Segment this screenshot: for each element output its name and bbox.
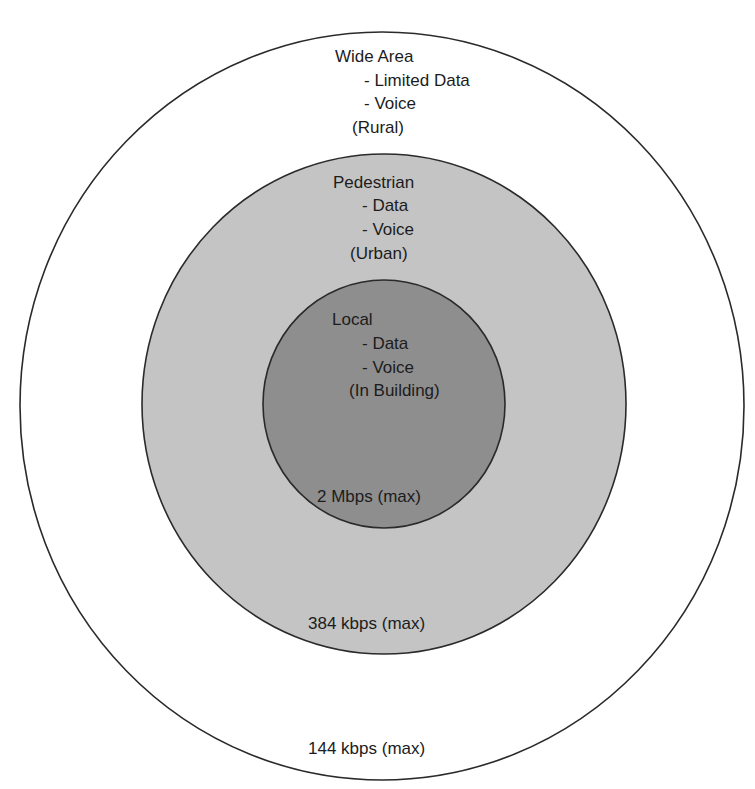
pedestrian-title: Pedestrian — [333, 173, 414, 192]
wide-area-service-1: - Limited Data — [364, 71, 470, 90]
wide-area-title: Wide Area — [335, 47, 414, 66]
pedestrian-environment: (Urban) — [350, 244, 408, 263]
local-service-1: - Data — [362, 334, 409, 353]
wide-area-rate: 144 kbps (max) — [308, 739, 425, 758]
local-title: Local — [332, 310, 373, 329]
pedestrian-service-1: - Data — [362, 196, 409, 215]
wide-area-service-2: - Voice — [364, 94, 416, 113]
local-rate: 2 Mbps (max) — [317, 487, 421, 506]
coverage-zones-diagram: Wide Area - Limited Data - Voice (Rural)… — [0, 0, 755, 789]
local-service-2: - Voice — [362, 358, 414, 377]
local-environment: (In Building) — [349, 381, 440, 400]
pedestrian-service-2: - Voice — [362, 220, 414, 239]
pedestrian-rate: 384 kbps (max) — [308, 614, 425, 633]
wide-area-environment: (Rural) — [352, 118, 404, 137]
